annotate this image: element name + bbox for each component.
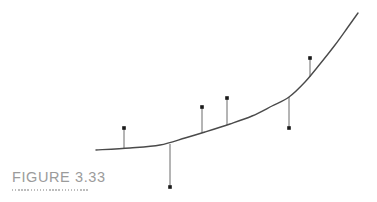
- fitted-curve: [96, 13, 358, 150]
- data-point-marker: [122, 126, 126, 130]
- page-title: FIGURE 3.33: [12, 169, 112, 186]
- data-point-marker: [225, 96, 229, 100]
- fitted-curve-path: [96, 13, 358, 150]
- figure-container: FIGURE 3.33: [0, 0, 377, 202]
- data-markers-group: [122, 56, 312, 189]
- data-point-marker: [168, 185, 172, 189]
- data-point-marker: [287, 126, 291, 130]
- caption-divider: [12, 189, 89, 191]
- data-point-marker: [200, 105, 204, 109]
- figure-caption-block: FIGURE 3.33: [12, 169, 112, 191]
- stems-group: [124, 58, 310, 187]
- data-point-marker: [308, 56, 312, 60]
